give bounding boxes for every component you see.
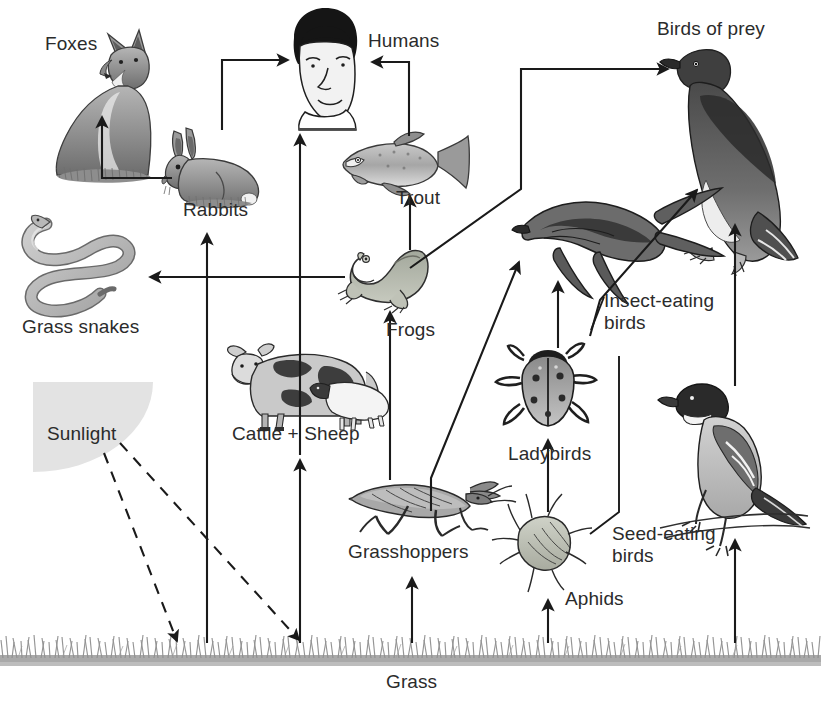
food-web-diagram: Foxes Humans Birds of prey Rabbits Trout… — [0, 0, 821, 702]
arrow-aphids-to-seed-eating-birds — [590, 356, 619, 534]
label-foxes: Foxes — [45, 33, 97, 55]
arrow-rabbits-to-foxes — [102, 117, 172, 178]
label-frogs: Frogs — [386, 319, 435, 341]
label-seed-eating-birds: Seed-eating birds — [612, 523, 716, 567]
arrow-trout-to-humans — [372, 62, 409, 136]
label-grass-snakes: Grass snakes — [22, 316, 139, 338]
arrow-grasshoppers-to-insect-eating-birds — [431, 262, 519, 511]
energy-flow-arrows — [0, 0, 821, 702]
label-cattle-sheep: Cattle + Sheep — [232, 423, 360, 445]
arrow-frogs-to-birds-of-prey — [410, 69, 668, 268]
label-grasshoppers: Grasshoppers — [348, 541, 469, 563]
label-grass: Grass — [386, 671, 437, 693]
arrow-sunlight-to-grass-1 — [104, 453, 177, 641]
label-humans: Humans — [368, 30, 439, 52]
arrow-sunlight-to-grass-2 — [120, 443, 299, 640]
label-trout: Trout — [396, 187, 440, 209]
label-ladybirds: Ladybirds — [508, 443, 591, 465]
label-insect-eating-birds: Insect-eating birds — [604, 290, 714, 334]
label-rabbits: Rabbits — [183, 199, 248, 221]
label-aphids: Aphids — [565, 588, 624, 610]
label-sunlight: Sunlight — [47, 423, 116, 445]
arrow-rabbits-to-humans — [222, 60, 288, 130]
arrow-insect-eating-birds-tail — [591, 297, 604, 330]
label-birds-of-prey: Birds of prey — [657, 18, 765, 40]
